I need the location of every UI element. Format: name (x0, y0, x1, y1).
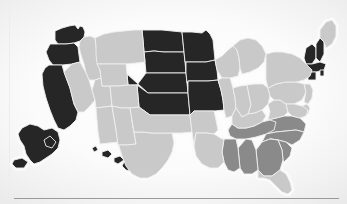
state-wy[interactable]: Wyoming (97, 64, 128, 86)
state-or[interactable]: Oregon (46, 43, 80, 65)
state-nd[interactable]: North Dakota (142, 30, 184, 52)
state-mn[interactable]: Minnesota (182, 30, 215, 62)
map-canvas[interactable]: WashingtonOregonCaliforniaAlaskaHawaiiNo… (0, 0, 347, 204)
state-oh[interactable]: Ohio (247, 84, 270, 114)
state-ia[interactable]: Iowa (186, 60, 218, 83)
state-mo[interactable]: Missouri (188, 80, 224, 115)
us-choropleth-map[interactable]: WashingtonOregonCaliforniaAlaskaHawaiiNo… (0, 0, 347, 204)
state-mt[interactable]: Montana (95, 30, 145, 64)
state-ri[interactable]: Rhode Island (320, 70, 324, 76)
state-co[interactable]: Colorado (110, 85, 139, 108)
map-screenshot: WashingtonOregonCaliforniaAlaskaHawaiiNo… (0, 0, 347, 204)
bottom-divider-rule (14, 198, 339, 199)
state-polygons[interactable]: WashingtonOregonCaliforniaAlaskaHawaiiNo… (12, 20, 336, 194)
state-sd[interactable]: South Dakota (144, 51, 186, 73)
state-wi[interactable]: Wisconsin (215, 46, 240, 78)
